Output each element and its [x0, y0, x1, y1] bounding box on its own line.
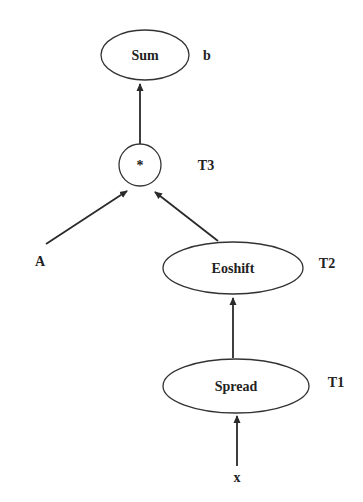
edge-eoshift-to-mult — [155, 192, 218, 241]
node-sum-label: Sum — [131, 48, 159, 63]
node-spread-label: Spread — [215, 379, 258, 394]
node-sum-annotation: b — [203, 48, 211, 63]
node-spread: Spread — [163, 359, 309, 413]
node-sum: Sum — [101, 30, 189, 80]
node-eoshift-annotation: T2 — [319, 256, 335, 271]
node-mult-annotation: T3 — [198, 158, 214, 173]
node-eoshift: Eoshift — [163, 242, 303, 294]
node-mult-label: * — [137, 158, 144, 173]
input-a-label: A — [35, 254, 46, 269]
node-spread-annotation: T1 — [328, 375, 344, 390]
node-eoshift-label: Eoshift — [212, 261, 255, 276]
node-mult: * — [119, 144, 161, 186]
expression-tree-diagram: Sum b * T3 A Eoshift T2 Spread T1 x — [0, 0, 363, 502]
edge-a-to-mult — [46, 191, 127, 244]
input-x-label: x — [234, 470, 241, 485]
